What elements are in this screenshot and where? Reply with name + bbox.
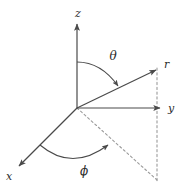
theta-angle-arc bbox=[77, 62, 118, 86]
r-axis-label: r bbox=[164, 58, 170, 71]
axis-lines bbox=[19, 24, 160, 166]
phi-angle-arc bbox=[40, 145, 108, 159]
diagram-canvas: z y x r θ ϕ bbox=[0, 0, 179, 185]
radius-projection-line bbox=[77, 108, 157, 180]
x-axis-line bbox=[19, 108, 77, 166]
spherical-coordinate-diagram: z y x r θ ϕ bbox=[0, 0, 179, 185]
phi-angle-label: ϕ bbox=[80, 164, 88, 178]
z-axis-label: z bbox=[74, 7, 81, 20]
y-axis-label: y bbox=[167, 102, 175, 115]
theta-angle-label: θ bbox=[109, 49, 117, 63]
x-axis-label: x bbox=[6, 170, 13, 183]
r-axis-line bbox=[77, 70, 156, 108]
